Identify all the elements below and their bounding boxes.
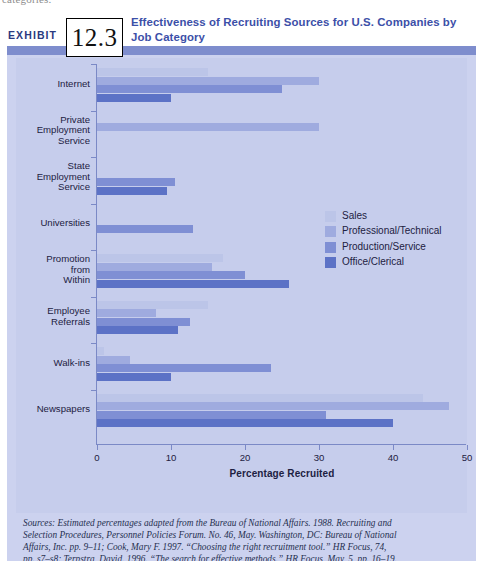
category-label: EmployeeReferrals [7, 306, 90, 327]
category-label: PrivateEmploymentService [7, 115, 90, 147]
legend-swatch [325, 242, 336, 253]
exhibit-number: 12.3 [67, 19, 122, 56]
category-label-line: Service [7, 182, 90, 193]
category-label-line: Internet [7, 79, 90, 90]
x-axis-tick [393, 445, 394, 450]
x-axis-title: Percentage Recruited [96, 468, 468, 479]
x-axis-tick [171, 445, 172, 450]
bar [97, 419, 393, 427]
category-tick [91, 111, 96, 112]
legend-label: Sales [342, 209, 367, 223]
sources-note: Sources: Estimated percentages adapted f… [16, 516, 467, 561]
category-tick [91, 157, 96, 158]
category-label: StateEmploymentService [7, 161, 90, 193]
category-label-line: Service [7, 136, 90, 147]
bar [97, 178, 175, 186]
legend-swatch [325, 257, 336, 268]
figure-panel: InternetPrivateEmploymentServiceStateEmp… [7, 46, 476, 561]
bar [97, 68, 208, 76]
category-tick [91, 343, 96, 344]
category-label-line: Universities [7, 218, 90, 229]
category-tick [91, 64, 96, 65]
page-text-stub-label: categories. [2, 0, 52, 5]
bar [97, 318, 190, 326]
legend-label: Office/Clerical [342, 255, 404, 269]
legend-label: Professional/Technical [342, 224, 442, 238]
category-tick [91, 297, 96, 298]
bar [97, 94, 171, 102]
category-label-line: Within [7, 275, 90, 286]
category-label: Walk-ins [7, 358, 90, 369]
legend-item: Sales [325, 209, 475, 224]
bar [97, 301, 208, 309]
x-axis-tick-label: 0 [82, 452, 112, 463]
legend-swatch [325, 226, 336, 237]
sources-line-3: Affairs, Inc. pp. 9–11; Cook, Mary F. 19… [23, 542, 467, 553]
x-axis-tick [245, 445, 246, 450]
bar [97, 326, 178, 334]
x-axis-tick [97, 445, 98, 450]
legend-swatch [325, 211, 336, 222]
category-label-line: Newspapers [7, 404, 90, 415]
bar [97, 364, 271, 372]
legend-label: Production/Service [342, 240, 426, 254]
bar [97, 347, 104, 355]
bar [97, 263, 212, 271]
sources-line-1: Sources: Estimated percentages adapted f… [23, 518, 467, 529]
bar [97, 271, 245, 279]
category-tick [91, 250, 96, 251]
exhibit-number-box: 12.3 [66, 18, 123, 57]
category-tick [91, 204, 96, 205]
x-axis-tick-label: 10 [156, 452, 186, 463]
bar [97, 225, 193, 233]
bar [97, 411, 326, 419]
bar [97, 77, 319, 85]
bar-chart: InternetPrivateEmploymentServiceStateEmp… [7, 46, 476, 516]
sources-line-4: pp. s7–s8; Terpstra, David. 1996. “The s… [23, 554, 467, 561]
x-axis-line [96, 444, 466, 445]
bar [97, 123, 319, 131]
exhibit-title: Effectiveness of Recruiting Sources for … [131, 15, 479, 45]
category-tick [91, 390, 96, 391]
bar [97, 394, 423, 402]
bar [97, 373, 171, 381]
x-axis-tick-label: 30 [304, 452, 334, 463]
bar [97, 187, 167, 195]
category-label: Newspapers [7, 404, 90, 415]
x-axis-tick [319, 445, 320, 450]
page-text-stub: categories. [0, 0, 483, 10]
legend-item: Office/Clerical [325, 255, 475, 270]
x-axis-tick-label: 40 [378, 452, 408, 463]
x-axis-tick-label: 20 [230, 452, 260, 463]
category-label: Internet [7, 79, 90, 90]
category-label: Universities [7, 218, 90, 229]
bar [97, 254, 223, 262]
category-label: PromotionfromWithin [7, 254, 90, 286]
bar [97, 309, 156, 317]
legend-item: Production/Service [325, 240, 475, 255]
sources-line-2: Selection Procedures, Personnel Policies… [23, 530, 467, 541]
exhibit-label: EXHIBIT [8, 29, 57, 41]
bar [97, 402, 449, 410]
x-axis-tick-label: 50 [452, 452, 476, 463]
bar [97, 356, 130, 364]
category-label-line: Walk-ins [7, 358, 90, 369]
bar [97, 85, 282, 93]
legend-item: Professional/Technical [325, 224, 475, 239]
chart-legend: SalesProfessional/TechnicalProduction/Se… [325, 209, 475, 271]
x-axis-tick [467, 445, 468, 450]
bar [97, 280, 289, 288]
category-label-line: Referrals [7, 317, 90, 328]
